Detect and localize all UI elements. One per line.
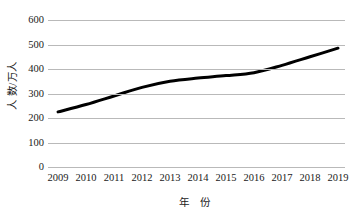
x-axis-tick-label: 2012 bbox=[132, 172, 153, 184]
x-axis-tick-label: 2010 bbox=[76, 172, 97, 184]
x-axis-tick-label: 2019 bbox=[328, 172, 349, 184]
y-axis-title-label: 人 数/万人 bbox=[4, 61, 19, 110]
x-axis-tick-label: 2017 bbox=[272, 172, 293, 184]
x-axis-tick-label: 2015 bbox=[216, 172, 237, 184]
plot-area bbox=[48, 20, 345, 167]
x-axis-tick-label: 2014 bbox=[188, 172, 209, 184]
y-axis-tick-label: 600 bbox=[28, 15, 44, 25]
y-axis-tick-label: 300 bbox=[28, 89, 44, 99]
y-axis-tick-label: 100 bbox=[28, 138, 44, 148]
gridline bbox=[48, 118, 345, 119]
x-axis-tick-label: 2013 bbox=[160, 172, 181, 184]
x-axis-tick-labels: 2009201020112012201320142015201620172018… bbox=[48, 172, 345, 188]
gridline bbox=[48, 45, 345, 46]
y-axis-tick-label: 400 bbox=[28, 64, 44, 74]
y-axis-tick-label: 500 bbox=[28, 40, 44, 50]
line-chart: 人 数/万人 0100200300400500600 2009201020112… bbox=[0, 0, 354, 217]
gridline bbox=[48, 143, 345, 144]
gridline bbox=[48, 69, 345, 70]
gridline bbox=[48, 94, 345, 95]
gridline bbox=[48, 20, 345, 21]
series-path bbox=[58, 48, 338, 112]
x-axis-title: 年 份 bbox=[48, 194, 345, 209]
y-axis-tick-label: 200 bbox=[28, 113, 44, 123]
x-axis-tick-label: 2011 bbox=[104, 172, 125, 184]
gridline bbox=[48, 167, 345, 168]
x-axis-tick-label: 2009 bbox=[48, 172, 69, 184]
x-axis-tick-label: 2016 bbox=[244, 172, 265, 184]
y-axis-tick-labels: 0100200300400500600 bbox=[18, 0, 48, 180]
x-axis-tick-label: 2018 bbox=[300, 172, 321, 184]
y-axis-tick-label: 0 bbox=[39, 162, 44, 172]
